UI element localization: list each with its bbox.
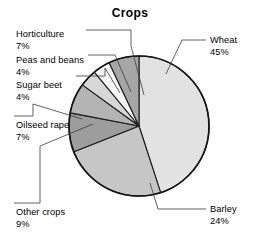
pie-chart-figure: Crops Wheat45%Barley24%Other crops9%Oils…: [0, 0, 260, 243]
slice-label-name-wheat: Wheat: [210, 35, 237, 45]
slice-label-value-peas-and-beans: 4%: [16, 67, 30, 77]
slice-label-name-other-crops: Other crops: [16, 207, 65, 217]
slice-label-value-wheat: 45%: [210, 47, 229, 57]
slice-label-value-barley: 24%: [210, 216, 229, 226]
slice-label-value-sugar-beet: 4%: [16, 92, 30, 102]
slice-label-value-horticulture: 7%: [16, 41, 30, 51]
slice-label-name-sugar-beet: Sugar beet: [16, 80, 62, 90]
slice-label-value-other-crops: 9%: [16, 219, 30, 229]
slice-label-name-peas-and-beans: Peas and beans: [16, 55, 84, 65]
slice-label-name-barley: Barley: [210, 204, 237, 214]
chart-title: Crops: [112, 6, 149, 20]
slice-label-name-horticulture: Horticulture: [16, 29, 64, 39]
slice-label-name-oilseed-rape: Oilseed rape: [16, 120, 69, 130]
slice-label-value-oilseed-rape: 7%: [16, 132, 30, 142]
pie-chart-canvas: Crops Wheat45%Barley24%Other crops9%Oils…: [0, 0, 260, 243]
